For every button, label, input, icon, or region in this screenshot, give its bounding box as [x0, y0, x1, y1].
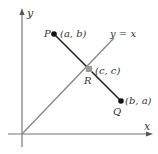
point-q-coords: (b, a): [125, 95, 152, 106]
x-axis-label: x: [144, 120, 151, 133]
y-axis-label: y: [26, 7, 34, 20]
x-axis: x: [8, 120, 153, 137]
line-y-equals-x-label: y = x: [109, 28, 136, 39]
reflection-diagram: y x y = x P (a, b) R (c, c) Q (b, a): [0, 0, 158, 154]
point-r-square-icon: [86, 66, 92, 72]
point-p: P (a, b): [43, 28, 87, 39]
point-q-dot-icon: [118, 98, 124, 104]
point-r-coords: (c, c): [95, 65, 120, 76]
point-p-coords: (a, b): [60, 28, 87, 39]
line-y-equals-x: y = x: [22, 28, 136, 134]
y-axis: y: [20, 7, 35, 147]
point-q-name: Q: [113, 106, 121, 117]
point-p-name: P: [43, 28, 51, 39]
y-axis-arrow-icon: [20, 8, 25, 15]
point-p-dot-icon: [51, 31, 57, 37]
point-r-name: R: [83, 75, 92, 86]
